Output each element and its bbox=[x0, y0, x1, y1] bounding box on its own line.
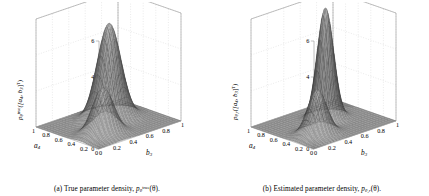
axis-line bbox=[118, 63, 181, 85]
axis-label-density: pθ,r([a4, b3]T) bbox=[231, 84, 239, 120]
b3-tick-label: 0.4 bbox=[344, 138, 352, 145]
axis-line bbox=[118, 2, 181, 13]
b3-tick-label: 0.8 bbox=[162, 127, 170, 134]
axis-line bbox=[333, 2, 396, 13]
axis-a4-subscript: 4 bbox=[253, 145, 255, 150]
a4-tick-label: 0 bbox=[310, 149, 313, 156]
caption-b-symbol-arg: (θ). bbox=[371, 185, 381, 193]
z-tick-label: 4 bbox=[306, 73, 309, 80]
axis-line bbox=[333, 63, 396, 85]
axis-line bbox=[36, 2, 118, 19]
caption-b-text: Estimated parameter density, bbox=[273, 185, 359, 193]
caption-panel-a: (a) True parameter density, pθtrue(θ). bbox=[0, 186, 214, 194]
a4-tick-label: 0.8 bbox=[42, 131, 50, 138]
caption-a-text: True parameter density, bbox=[64, 185, 134, 193]
axis-b3-subscript: 3 bbox=[150, 152, 152, 157]
figure-two-panel-density: 024600.20.40.60.8100.20.40.60.81a4b3pθtr… bbox=[0, 0, 429, 196]
a4-tick-label: 0.6 bbox=[55, 136, 63, 143]
panel-estimated-density: 024600.20.40.60.8100.20.40.60.81a4b3pθ,r… bbox=[215, 0, 429, 196]
b3-tick-label: 0 bbox=[314, 149, 317, 156]
axis-line bbox=[251, 2, 333, 19]
density-surface-mesh bbox=[36, 23, 181, 149]
b3-tick-label: 0.2 bbox=[328, 144, 336, 151]
a4-tick-label: 1 bbox=[247, 127, 250, 134]
axis-line bbox=[36, 2, 118, 19]
a4-tick-label: 0.2 bbox=[295, 145, 303, 152]
panel-true-density: 024600.20.40.60.8100.20.40.60.81a4b3pθtr… bbox=[0, 0, 214, 196]
a4-tick-label: 0.4 bbox=[67, 140, 75, 147]
axis-line bbox=[333, 2, 396, 13]
surface-plot-true: 024600.20.40.60.8100.20.40.60.81a4b3pθtr… bbox=[0, 2, 214, 170]
a4-tick-label: 0 bbox=[95, 149, 98, 156]
axis-label-density: pθtrue([a4, b3]T) bbox=[16, 80, 24, 120]
b3-tick-label: 0.6 bbox=[146, 132, 154, 139]
axis-line bbox=[118, 27, 181, 49]
a4-tick-label: 1 bbox=[32, 127, 35, 134]
surface-svg: 024600.20.40.60.8100.20.40.60.81 bbox=[215, 2, 429, 170]
a4-tick-label: 0.6 bbox=[270, 136, 278, 143]
caption-a-symbol-sup: true bbox=[142, 185, 149, 190]
a4-tick-label: 0.8 bbox=[257, 131, 265, 138]
axis-b3-subscript: 3 bbox=[365, 152, 367, 157]
b3-tick-label: 0.8 bbox=[377, 127, 385, 134]
b3-tick-label: 1 bbox=[181, 121, 184, 128]
caption-b-prefix: (b) bbox=[263, 185, 272, 193]
z-tick-label: 6 bbox=[91, 37, 94, 44]
caption-a-prefix: (a) bbox=[54, 185, 62, 193]
z-tick-label: 6 bbox=[306, 37, 309, 44]
a4-tick-label: 0.2 bbox=[80, 145, 88, 152]
surface-plot-estimated: 024600.20.40.60.8100.20.40.60.81a4b3pθ,r… bbox=[215, 2, 429, 170]
b3-tick-label: 0.6 bbox=[361, 132, 369, 139]
b3-tick-label: 0.4 bbox=[129, 138, 137, 145]
axis-label-b3: b3 bbox=[146, 148, 152, 157]
axis-line bbox=[333, 27, 396, 49]
b3-tick-label: 0.2 bbox=[113, 144, 121, 151]
caption-a-symbol-arg: (θ). bbox=[150, 185, 160, 193]
axis-label-b3: b3 bbox=[361, 148, 367, 157]
axis-label-a4: a4 bbox=[34, 141, 40, 150]
b3-tick-label: 0 bbox=[99, 149, 102, 156]
axis-line bbox=[118, 2, 181, 13]
density-surface-mesh bbox=[251, 8, 396, 149]
axis-label-a4: a4 bbox=[249, 141, 255, 150]
axis-a4-subscript: 4 bbox=[38, 145, 40, 150]
a4-tick-label: 0.4 bbox=[282, 140, 290, 147]
axis-line bbox=[251, 2, 333, 19]
caption-panel-b: (b) Estimated parameter density, pθ,r(θ)… bbox=[215, 186, 429, 194]
b3-tick-label: 1 bbox=[396, 121, 399, 128]
surface-svg: 024600.20.40.60.8100.20.40.60.81 bbox=[0, 2, 214, 170]
